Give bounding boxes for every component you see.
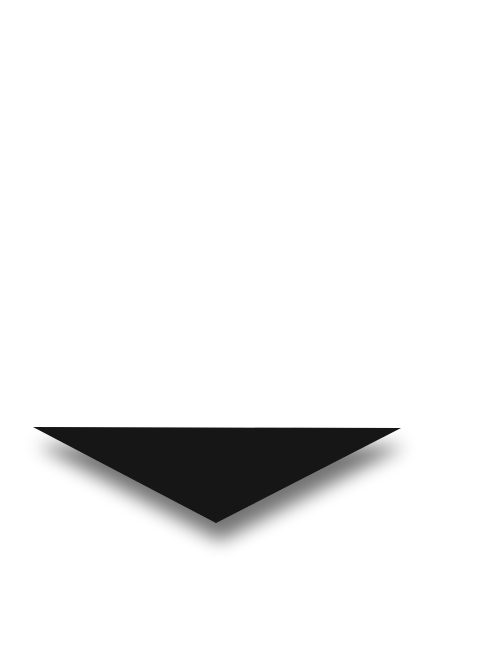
triangle-shape <box>33 427 401 523</box>
canvas <box>0 0 484 666</box>
down-triangle-arrow-icon <box>0 0 484 666</box>
